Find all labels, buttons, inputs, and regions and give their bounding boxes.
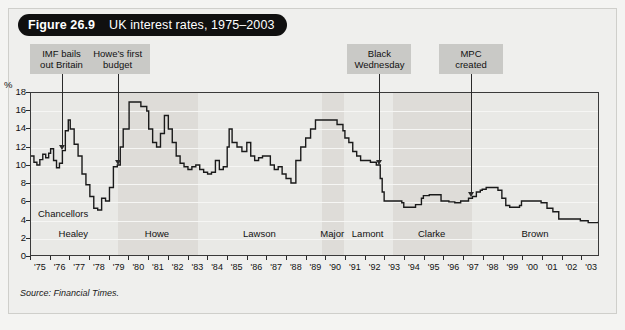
y-axis-tick xyxy=(26,201,30,202)
annotation-leader-arrow xyxy=(376,160,382,165)
annotation-imf-bails-out-britain: IMF bailsout Britain xyxy=(30,44,94,74)
x-axis-tick xyxy=(109,256,110,260)
x-axis-tick xyxy=(188,256,189,260)
annotation-leader-arrow xyxy=(115,160,121,165)
x-axis-tick xyxy=(404,256,405,260)
x-axis-tick xyxy=(581,256,582,260)
y-axis-tick-label: 16 xyxy=(4,104,26,115)
annotation-leader-line xyxy=(379,74,380,162)
annotation-line-2: created xyxy=(455,59,487,71)
annotation-mpc-created: MPCcreated xyxy=(439,44,503,74)
annotation-black-wednesday: BlackWednesday xyxy=(347,44,411,74)
x-axis-tick xyxy=(286,256,287,260)
annotation-leader-line xyxy=(118,74,119,162)
chancellor-label-healey: Healey xyxy=(33,228,113,239)
source-note: Source: Financial Times. xyxy=(20,288,119,298)
y-axis-tick-label: 18 xyxy=(4,86,26,97)
x-axis-tick xyxy=(89,256,90,260)
x-axis-tick-label: '03 xyxy=(578,262,604,272)
chancellors-caption: Chancellors xyxy=(38,208,88,219)
chancellor-label-lawson: Lawson xyxy=(219,228,299,239)
annotation-leader-line xyxy=(471,74,472,194)
chancellor-label-howe: Howe xyxy=(117,228,197,239)
x-axis-tick xyxy=(69,256,70,260)
y-axis-tick-label: 4 xyxy=(4,214,26,225)
y-axis-tick xyxy=(26,165,30,166)
x-axis-tick xyxy=(384,256,385,260)
annotation-leader-arrow xyxy=(59,145,65,150)
y-axis-tick xyxy=(26,183,30,184)
y-axis-tick-label: 14 xyxy=(4,122,26,133)
annotation-line-2: out Britain xyxy=(40,59,83,71)
annotation-line-1: Howe’s first xyxy=(93,48,142,60)
chancellor-label-clarke: Clarke xyxy=(392,228,472,239)
y-axis-tick xyxy=(26,147,30,148)
x-axis-tick xyxy=(227,256,228,260)
annotation-text: Howe’s firstbudget xyxy=(93,48,142,71)
x-axis-tick xyxy=(365,256,366,260)
y-axis-tick-label: 8 xyxy=(4,177,26,188)
annotation-line-1: IMF bails xyxy=(40,48,83,60)
x-axis-tick xyxy=(562,256,563,260)
figure-container: Figure 26.9 UK interest rates, 1975–2003… xyxy=(0,0,625,330)
annotation-line-1: MPC xyxy=(455,48,487,60)
x-axis-tick xyxy=(503,256,504,260)
x-axis-tick xyxy=(207,256,208,260)
x-axis-tick xyxy=(345,256,346,260)
x-axis-tick xyxy=(325,256,326,260)
x-axis-tick xyxy=(424,256,425,260)
x-axis-tick xyxy=(148,256,149,260)
x-axis-tick xyxy=(443,256,444,260)
x-axis-tick xyxy=(463,256,464,260)
annotation-line-2: budget xyxy=(93,59,142,71)
annotation-howes-first-budget: Howe’s firstbudget xyxy=(86,44,150,74)
annotation-text: IMF bailsout Britain xyxy=(40,48,83,71)
x-axis-tick xyxy=(306,256,307,260)
x-axis-tick xyxy=(522,256,523,260)
y-axis-tick-label: 2 xyxy=(4,232,26,243)
y-axis-tick xyxy=(26,220,30,221)
annotation-text: BlackWednesday xyxy=(354,48,404,71)
x-axis-tick xyxy=(483,256,484,260)
y-axis-tick xyxy=(26,238,30,239)
y-axis-tick xyxy=(26,110,30,111)
plot-wrapper: % 024681012141618 '75'76'77'78'79'80'81'… xyxy=(0,0,609,306)
y-axis-tick-label: 6 xyxy=(4,195,26,206)
x-axis-tick xyxy=(542,256,543,260)
x-axis-tick xyxy=(128,256,129,260)
chancellor-label-brown: Brown xyxy=(495,228,575,239)
y-axis-tick xyxy=(26,92,30,93)
annotation-line-2: Wednesday xyxy=(354,59,404,71)
x-axis-tick xyxy=(50,256,51,260)
x-axis-tick xyxy=(168,256,169,260)
annotation-leader-line xyxy=(62,74,63,147)
annotation-line-1: Black xyxy=(354,48,404,60)
y-axis-tick-label: 0 xyxy=(4,250,26,261)
y-axis-tick xyxy=(26,128,30,129)
annotation-text: MPCcreated xyxy=(455,48,487,71)
y-axis-tick-label: 12 xyxy=(4,141,26,152)
x-axis-tick xyxy=(247,256,248,260)
x-axis-tick xyxy=(30,256,31,260)
x-axis-tick xyxy=(266,256,267,260)
annotation-leader-arrow xyxy=(468,192,474,197)
y-axis-tick-label: 10 xyxy=(4,159,26,170)
